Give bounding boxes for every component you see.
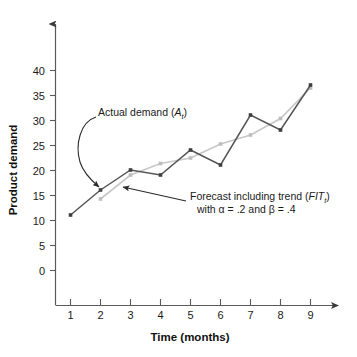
y-tick-label-35: 35 <box>33 90 45 102</box>
x-axis-title: Time (months) <box>150 331 229 343</box>
chart-page: 0 5 10 15 20 25 30 35 40 1 2 3 4 <box>0 0 357 357</box>
actual-point-8 <box>279 128 283 132</box>
forecast-point-2 <box>99 197 103 201</box>
y-tick-label-40: 40 <box>33 65 45 77</box>
actual-point-5 <box>189 148 193 152</box>
y-tick-label-20: 20 <box>33 165 45 177</box>
x-tick-label-4: 4 <box>157 309 163 321</box>
actual-point-4 <box>159 173 163 177</box>
y-tick-label-25: 25 <box>33 140 45 152</box>
actual-point-9 <box>309 83 313 87</box>
y-axis-title: Product demand <box>7 125 19 216</box>
x-tick-label-2: 2 <box>97 309 103 321</box>
actual-point-7 <box>249 113 253 117</box>
y-tick-label-5: 5 <box>39 240 45 252</box>
x-tick-label-1: 1 <box>67 309 73 321</box>
y-tick-label-30: 30 <box>33 115 45 127</box>
forecast-demand-line-chart: 0 5 10 15 20 25 30 35 40 1 2 3 4 <box>0 0 357 357</box>
x-tick-label-5: 5 <box>187 309 193 321</box>
forecast-point-8 <box>279 117 283 121</box>
forecast-point-4 <box>159 162 163 166</box>
x-tick-label-8: 8 <box>277 309 283 321</box>
forecast-point-3 <box>129 173 133 177</box>
x-tick-label-7: 7 <box>247 309 253 321</box>
x-tick-label-3: 3 <box>127 309 133 321</box>
actual-point-1 <box>69 213 73 217</box>
y-tick-label-15: 15 <box>33 190 45 202</box>
forecast-point-5 <box>189 156 193 160</box>
x-tick-label-6: 6 <box>217 309 223 321</box>
actual-point-3 <box>129 168 133 172</box>
actual-point-2 <box>99 188 103 192</box>
y-tick-label-0: 0 <box>39 265 45 277</box>
chart-background <box>0 0 357 357</box>
x-tick-label-9: 9 <box>307 309 313 321</box>
forecast-point-6 <box>219 142 223 146</box>
y-tick-label-10: 10 <box>33 215 45 227</box>
actual-point-6 <box>219 163 223 167</box>
forecast-annotation-label-line2: with α = .2 and β = .4 <box>196 203 296 215</box>
forecast-point-7 <box>249 133 253 137</box>
